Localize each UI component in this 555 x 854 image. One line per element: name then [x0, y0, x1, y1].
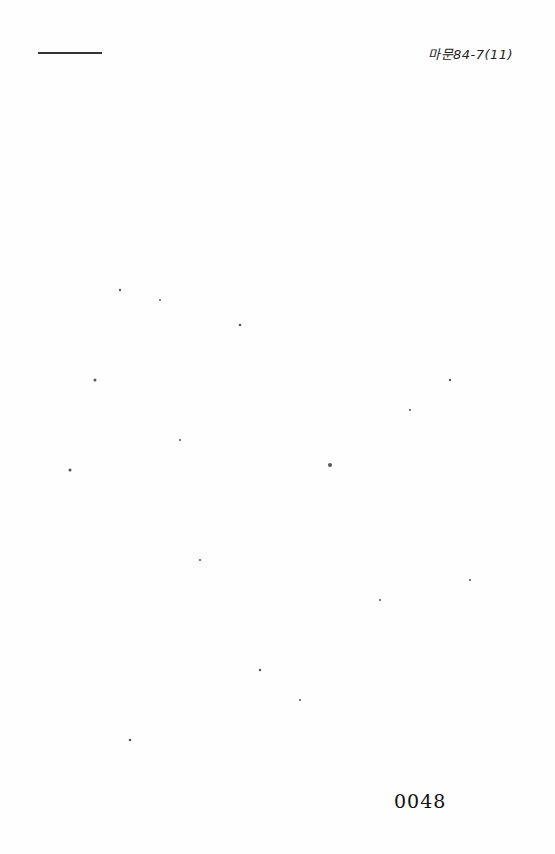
scanned-page: 마문84-7(11) 0048	[0, 0, 555, 854]
scan-noise	[0, 0, 555, 854]
page-number: 0048	[394, 790, 446, 812]
horizontal-rule	[38, 52, 102, 54]
reference-code: 마문84-7(11)	[428, 44, 513, 63]
